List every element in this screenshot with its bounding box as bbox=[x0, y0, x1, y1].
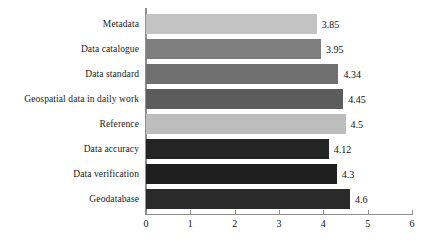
bar-track: 4.6 bbox=[146, 189, 447, 209]
bar-track: 4.3 bbox=[146, 164, 447, 184]
bar-value-geospatial-data-in-daily-work: 4.45 bbox=[348, 94, 366, 105]
bar-row: Geospatial data in daily work 4.45 bbox=[0, 89, 447, 109]
bar-track: 4.5 bbox=[146, 114, 447, 134]
x-tick-mark bbox=[323, 210, 324, 214]
bar-rows: Metadata 3.85 Data catalogue 3.95 Data s… bbox=[0, 14, 447, 214]
bar-track: 4.45 bbox=[146, 89, 447, 109]
bar-value-data-standard: 4.34 bbox=[343, 69, 361, 80]
x-axis-ticks: 0123456 bbox=[0, 214, 447, 240]
bar-data-accuracy bbox=[146, 139, 329, 159]
category-label-geodatabase: Geodatabase bbox=[89, 194, 139, 204]
bar-value-data-verification: 4.3 bbox=[342, 169, 355, 180]
x-tick-mark bbox=[146, 210, 147, 214]
category-label-data-verification: Data verification bbox=[73, 169, 139, 179]
category-label-data-standard: Data standard bbox=[85, 69, 139, 79]
x-tick-label: 6 bbox=[410, 218, 415, 229]
bar-row: Data accuracy 4.12 bbox=[0, 139, 447, 159]
bar-row: Data verification 4.3 bbox=[0, 164, 447, 184]
bar-value-reference: 4.5 bbox=[351, 119, 364, 130]
bar-track: 3.85 bbox=[146, 14, 447, 34]
bar-data-standard bbox=[146, 64, 338, 84]
bar-track: 3.95 bbox=[146, 39, 447, 59]
bar-value-metadata: 3.85 bbox=[322, 19, 340, 30]
bar-track: 4.34 bbox=[146, 64, 447, 84]
bar-reference bbox=[146, 114, 346, 134]
bar-metadata bbox=[146, 14, 317, 34]
x-tick-label: 3 bbox=[277, 218, 282, 229]
bar-chart: Metadata 3.85 Data catalogue 3.95 Data s… bbox=[0, 0, 447, 240]
bar-data-catalogue bbox=[146, 39, 321, 59]
x-tick-mark bbox=[368, 210, 369, 214]
x-tick-label: 2 bbox=[232, 218, 237, 229]
bar-track: 4.12 bbox=[146, 139, 447, 159]
x-tick-mark bbox=[235, 210, 236, 214]
bar-geospatial-data-in-daily-work bbox=[146, 89, 343, 109]
x-tick-mark bbox=[279, 210, 280, 214]
x-tick-label: 0 bbox=[144, 218, 149, 229]
plot-area: Metadata 3.85 Data catalogue 3.95 Data s… bbox=[0, 0, 447, 240]
bar-data-verification bbox=[146, 164, 337, 184]
bar-geodatabase bbox=[146, 189, 350, 209]
bar-value-data-catalogue: 3.95 bbox=[326, 44, 344, 55]
category-label-geospatial-data-in-daily-work: Geospatial data in daily work bbox=[24, 94, 139, 104]
bar-row: Metadata 3.85 bbox=[0, 14, 447, 34]
category-label-metadata: Metadata bbox=[103, 19, 139, 29]
bar-row: Data catalogue 3.95 bbox=[0, 39, 447, 59]
x-tick-label: 5 bbox=[365, 218, 370, 229]
x-tick-label: 4 bbox=[321, 218, 326, 229]
bar-value-data-accuracy: 4.12 bbox=[334, 144, 352, 155]
bar-row: Data standard 4.34 bbox=[0, 64, 447, 84]
bar-value-geodatabase: 4.6 bbox=[355, 194, 368, 205]
x-tick-mark bbox=[190, 210, 191, 214]
x-tick-label: 1 bbox=[188, 218, 193, 229]
category-label-reference: Reference bbox=[100, 119, 139, 129]
x-tick-mark bbox=[412, 210, 413, 214]
bar-row: Reference 4.5 bbox=[0, 114, 447, 134]
category-label-data-accuracy: Data accuracy bbox=[84, 144, 139, 154]
bar-row: Geodatabase 4.6 bbox=[0, 189, 447, 209]
category-label-data-catalogue: Data catalogue bbox=[81, 44, 139, 54]
